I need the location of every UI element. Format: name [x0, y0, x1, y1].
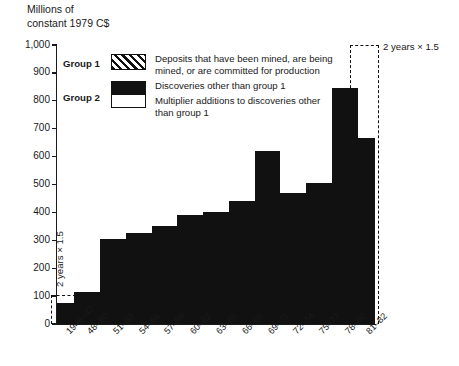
y-tick-label: 500 — [4, 178, 50, 189]
bar — [280, 193, 306, 324]
y-tick-label: 900 — [4, 66, 50, 77]
y-tick-mark — [52, 212, 57, 213]
y-tick-label: 100 — [4, 290, 50, 301]
y-tick-label: 0 — [4, 318, 50, 329]
y-tick-mark — [52, 184, 57, 185]
bar — [255, 151, 281, 324]
y-tick-label: 600 — [4, 150, 50, 161]
y-tick-label: 700 — [4, 122, 50, 133]
y-tick-label: 400 — [4, 206, 50, 217]
chart-legend: Group 1 Deposits that have been mined, a… — [63, 52, 363, 122]
y-tick-mark — [52, 156, 57, 157]
legend-group2-description-b: Multiplier additions to discoveries othe… — [155, 95, 370, 120]
legend-group1-label: Group 1 — [63, 58, 100, 69]
y-axis-ticks: 01002003004005006007008009001,000 — [0, 0, 50, 366]
legend-group1-description: Deposits that have been mined, are being… — [155, 53, 370, 78]
bar — [152, 226, 178, 324]
legend-swatch-group2-white — [111, 94, 146, 108]
left-annotation-box — [51, 295, 76, 324]
legend-swatch-group2-solid — [111, 81, 146, 94]
y-tick-label: 1,000 — [4, 39, 50, 50]
chart-canvas: Millions of constant 1979 C$ 01002003004… — [0, 0, 459, 366]
legend-group2-label: Group 2 — [63, 92, 100, 103]
left-annotation-label: 2 years × 1.5 — [54, 231, 65, 287]
y-tick-mark — [52, 72, 57, 73]
bar — [126, 233, 152, 324]
y-tick-label: 200 — [4, 262, 50, 273]
y-tick-label: 800 — [4, 94, 50, 105]
y-tick-mark — [52, 44, 57, 45]
y-tick-label: 300 — [4, 234, 50, 245]
right-annotation-label: 2 years × 1.5 — [383, 41, 439, 52]
legend-swatch-group1-hatched — [111, 54, 146, 70]
legend-group2-description-a: Discoveries other than group 1 — [155, 80, 370, 92]
bar — [229, 201, 255, 324]
bar — [177, 215, 203, 324]
bar — [203, 212, 229, 324]
y-tick-mark — [52, 100, 57, 101]
bar — [306, 183, 332, 324]
y-tick-mark — [52, 128, 57, 129]
